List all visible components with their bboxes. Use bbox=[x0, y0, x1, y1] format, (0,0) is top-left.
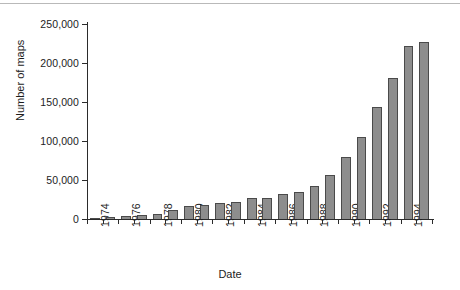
x-axis-tick bbox=[212, 219, 213, 224]
bar bbox=[153, 214, 163, 219]
x-axis-tick bbox=[150, 219, 151, 224]
y-axis-tick bbox=[82, 24, 87, 25]
plot-area: 050,000100,000150,000200,000250,00019741… bbox=[87, 24, 432, 219]
x-axis-tick bbox=[369, 219, 370, 224]
bar bbox=[168, 210, 178, 219]
x-axis-tick bbox=[291, 219, 292, 224]
x-axis-tick bbox=[228, 219, 229, 224]
y-axis-tick bbox=[82, 63, 87, 64]
x-axis-tick bbox=[432, 219, 433, 224]
x-axis-tick bbox=[416, 219, 417, 224]
bar bbox=[357, 137, 367, 219]
y-axis-tick bbox=[82, 141, 87, 142]
x-axis-tick bbox=[118, 219, 119, 224]
x-axis-tick bbox=[260, 219, 261, 224]
x-axis-tick bbox=[244, 219, 245, 224]
bar bbox=[106, 217, 116, 219]
y-axis-tick bbox=[82, 102, 87, 103]
x-axis-tick bbox=[197, 219, 198, 224]
bar bbox=[404, 46, 414, 219]
x-axis-tick bbox=[307, 219, 308, 224]
x-axis-tick bbox=[354, 219, 355, 224]
bar bbox=[419, 42, 429, 219]
x-axis-tick-label: 1974 bbox=[99, 203, 111, 227]
x-axis-tick bbox=[322, 219, 323, 224]
x-axis-tick bbox=[385, 219, 386, 224]
bar bbox=[388, 78, 398, 219]
y-axis-tick-label: 0 bbox=[73, 213, 79, 225]
x-axis-tick bbox=[87, 219, 88, 224]
x-axis-tick bbox=[103, 219, 104, 224]
y-axis-tick-label: 200,000 bbox=[40, 57, 79, 69]
x-axis-tick bbox=[165, 219, 166, 224]
x-axis-tick bbox=[338, 219, 339, 224]
x-axis-tick bbox=[401, 219, 402, 224]
bar bbox=[294, 192, 304, 219]
y-axis-tick bbox=[82, 180, 87, 181]
bar bbox=[231, 202, 241, 219]
x-axis-tick bbox=[181, 219, 182, 224]
chart-figure: Number of maps 050,000100,000150,000200,… bbox=[0, 0, 460, 290]
x-axis-title: Date bbox=[0, 268, 460, 280]
x-axis-tick bbox=[134, 219, 135, 224]
bar bbox=[325, 175, 335, 219]
page-top-rule bbox=[0, 3, 460, 4]
x-axis-tick bbox=[275, 219, 276, 224]
y-axis-tick-label: 250,000 bbox=[40, 18, 79, 30]
bar bbox=[262, 198, 272, 219]
bar bbox=[137, 215, 147, 219]
y-axis-tick-label: 100,000 bbox=[40, 135, 79, 147]
y-axis-title: Number of maps bbox=[14, 40, 26, 121]
bar bbox=[200, 205, 210, 219]
y-axis-tick-label: 150,000 bbox=[40, 96, 79, 108]
y-axis-tick-label: 50,000 bbox=[46, 174, 79, 186]
